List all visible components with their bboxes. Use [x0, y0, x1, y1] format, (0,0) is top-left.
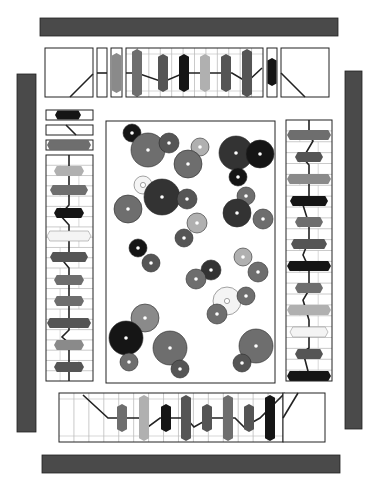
disc: [248, 262, 268, 282]
piece-box: [45, 48, 93, 97]
hex-piece: [244, 404, 254, 432]
piece-box: [111, 48, 122, 97]
hex-piece: [295, 152, 323, 162]
disc-hub: [130, 131, 134, 135]
disc-hub: [258, 152, 262, 156]
piece-box: [46, 155, 93, 381]
piece-box: [97, 48, 107, 97]
hex-piece: [47, 141, 91, 150]
right-bar: [345, 71, 362, 429]
hex-piece: [54, 340, 84, 350]
disc-hub: [198, 145, 202, 149]
disc: [129, 239, 147, 257]
hex-piece: [54, 362, 84, 372]
disc-hub: [244, 194, 248, 198]
disc: [159, 133, 179, 153]
piece-box: [267, 48, 277, 97]
hex-piece: [202, 404, 212, 432]
piece-box: [281, 48, 329, 97]
hex-piece: [54, 208, 84, 218]
hex-piece: [295, 349, 323, 359]
hex-piece: [161, 404, 171, 432]
hex-piece: [54, 275, 84, 285]
hex-piece: [55, 111, 81, 120]
disc-hub: [185, 197, 189, 201]
disc-hub: [124, 336, 128, 340]
disc-hub: [167, 141, 171, 145]
disc-hub: [234, 151, 238, 155]
disc-hub: [224, 298, 229, 303]
disc: [233, 354, 251, 372]
disc: [253, 209, 273, 229]
hex-piece: [287, 371, 331, 381]
box-bg: [46, 125, 93, 135]
disc: [175, 229, 193, 247]
hex-piece: [287, 174, 331, 184]
hex-piece: [50, 185, 88, 195]
disc-hub: [209, 268, 213, 272]
piece-box: [46, 125, 93, 135]
disc: [174, 150, 202, 178]
disc: [144, 179, 180, 215]
disc-hub: [143, 316, 147, 320]
hex-piece: [221, 54, 231, 92]
disc-hub: [182, 236, 186, 240]
hex-piece: [290, 327, 328, 337]
disc-hub: [146, 148, 150, 152]
disc-hub: [168, 346, 172, 350]
hex-piece: [242, 49, 252, 97]
disc-hub: [240, 361, 244, 365]
disc-hub: [140, 182, 145, 187]
disc-hub: [178, 367, 182, 371]
disc: [237, 287, 255, 305]
hex-piece: [47, 231, 91, 241]
hex-piece: [54, 166, 84, 176]
disc: [187, 213, 207, 233]
left-bar: [17, 74, 36, 432]
disc: [207, 304, 227, 324]
disc: [177, 189, 197, 209]
disc-hub: [149, 261, 153, 265]
piece-box: [46, 110, 93, 120]
hex-piece: [295, 283, 323, 293]
hex-piece: [139, 395, 149, 441]
piece-box: [59, 393, 285, 442]
disc-hub: [126, 207, 130, 211]
hex-piece: [287, 130, 331, 140]
hex-piece: [117, 404, 127, 432]
disc: [142, 254, 160, 272]
disc-hub: [235, 211, 239, 215]
disc: [131, 133, 165, 167]
disc: [223, 199, 251, 227]
disc-hub: [136, 246, 140, 250]
box-bg: [45, 48, 93, 97]
hex-piece: [50, 252, 88, 262]
disc-hub: [254, 344, 258, 348]
center-panel: [106, 121, 275, 383]
piece-box: [283, 393, 325, 442]
disc-hub: [236, 175, 240, 179]
box-bg: [283, 393, 325, 442]
bottom-bar: [42, 455, 340, 473]
piece-box: [126, 48, 263, 97]
disc-hub: [195, 221, 199, 225]
disc: [246, 140, 274, 168]
disc-hub: [256, 270, 260, 274]
hex-piece: [295, 217, 323, 227]
box-bg: [281, 48, 329, 97]
disc-hub: [215, 312, 219, 316]
hex-piece: [181, 395, 191, 441]
disc: [120, 353, 138, 371]
hex-piece: [132, 49, 142, 97]
hex-piece: [179, 54, 189, 92]
board-diagram: [0, 0, 376, 490]
disc-hub: [261, 217, 265, 221]
disc: [114, 195, 142, 223]
disc: [186, 269, 206, 289]
hex-piece: [54, 296, 84, 306]
disc-hub: [186, 162, 190, 166]
hex-piece: [268, 58, 277, 86]
hex-piece: [47, 318, 91, 328]
piece-box: [46, 140, 93, 150]
hex-piece: [265, 395, 275, 441]
